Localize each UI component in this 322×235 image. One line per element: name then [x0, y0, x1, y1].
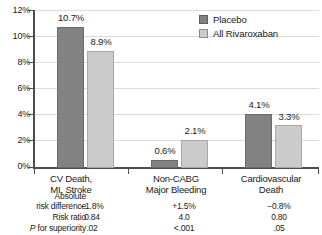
stats-row-risk-ratio: Risk ratio 0.84 4.0 0.80: [0, 212, 322, 222]
stats-cell-risk-ratio-cardiovascular-death: 0.80: [249, 212, 309, 222]
x-category-label-line-1: Cardiovascular: [224, 173, 318, 184]
stats-cell-p-value-cv-death-mi-stroke: .02: [62, 223, 122, 233]
bar-placebo-cardiovascular-death[interactable]: [245, 114, 272, 168]
stats-row-p-for-superiority: P for superiority .02 <.001 .05: [0, 223, 322, 233]
stats-row-label-absolute: Absolute: [0, 191, 86, 201]
bar-value-rivaroxaban-non-cabg-major-bleeding: 2.1%: [168, 126, 222, 136]
bar-value-rivaroxaban-cv-death-mi-stroke: 8.9%: [74, 37, 128, 47]
stats-cell-risk-ratio-non-cabg-major-bleeding: 4.0: [154, 212, 214, 222]
bar-rivaroxaban-non-cabg-major-bleeding[interactable]: [181, 140, 208, 168]
legend-label-placebo: Placebo: [213, 15, 247, 25]
x-category-label-line-1: CV Death,: [41, 173, 101, 184]
bar-placebo-cv-death-mi-stroke[interactable]: [57, 27, 84, 168]
bar-rivaroxaban-cardiovascular-death[interactable]: [275, 125, 302, 168]
stats-row-absolute-risk-difference: risk difference −1.8% +1.5% −0.8%: [0, 201, 322, 211]
stats-cell-p-value-non-cabg-major-bleeding: <.001: [154, 223, 214, 233]
stats-cell-risk-ratio-cv-death-mi-stroke: 0.84: [62, 212, 122, 222]
x-category-label-line-1: Non-CABG: [129, 173, 223, 184]
bar-value-placebo-cv-death-mi-stroke: 10.7%: [44, 13, 98, 23]
legend-label-all-rivaroxaban: All Rivaroxaban: [213, 29, 278, 39]
legend-item-all-rivaroxaban[interactable]: All Rivaroxaban: [199, 27, 278, 40]
stats-table: Absolute risk difference −1.8% +1.5% −0.…: [0, 190, 322, 235]
legend: Placebo All Rivaroxaban: [199, 13, 278, 41]
bar-value-rivaroxaban-cardiovascular-death: 3.3%: [262, 112, 316, 122]
stats-cell-risk-difference-non-cabg-major-bleeding: +1.5%: [154, 201, 214, 211]
bar-chart-figure: 12% 10% 8% 6% 4% 2% 0%: [0, 0, 322, 235]
legend-swatch-icon-placebo: [199, 15, 208, 24]
stats-cell-risk-difference-cv-death-mi-stroke: −1.8%: [62, 201, 122, 211]
bar-placebo-non-cabg-major-bleeding[interactable]: [151, 160, 178, 168]
bar-value-placebo-cardiovascular-death: 4.1%: [232, 100, 286, 110]
stats-cell-p-value-cardiovascular-death: .05: [249, 223, 309, 233]
legend-item-placebo[interactable]: Placebo: [199, 13, 278, 26]
stats-cell-risk-difference-cardiovascular-death: −0.8%: [249, 201, 309, 211]
legend-swatch-icon-all-rivaroxaban: [199, 29, 208, 38]
stats-row-absolute-risk-difference-line1: Absolute: [0, 191, 322, 201]
bar-rivaroxaban-cv-death-mi-stroke[interactable]: [87, 51, 114, 168]
plot-area: 12% 10% 8% 6% 4% 2% 0%: [0, 0, 322, 190]
